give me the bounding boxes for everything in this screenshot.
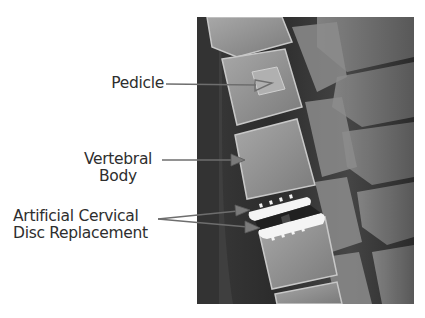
disc-line1: Artificial Cervical <box>13 208 163 225</box>
vertebral-body-line1: Vertebral <box>78 151 158 168</box>
label-pedicle: Pedicle <box>104 75 164 92</box>
vertebral-body-line2: Body <box>78 168 158 185</box>
xray-image <box>197 17 414 304</box>
label-artificial-cervical-disc-replacement: Artificial Cervical Disc Replacement <box>13 208 163 242</box>
label-vertebral-body: Vertebral Body <box>78 151 158 185</box>
pedicle-text: Pedicle <box>111 74 164 92</box>
disc-line2: Disc Replacement <box>13 225 163 242</box>
